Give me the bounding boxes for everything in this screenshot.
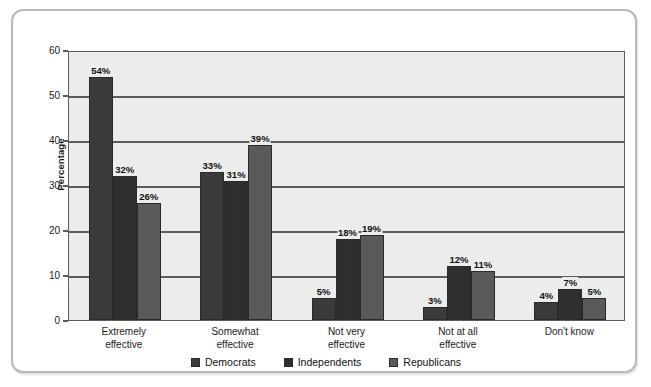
bar-wrap: 4% xyxy=(534,52,558,320)
x-category-label: Extremelyeffective xyxy=(68,325,179,351)
bar-wrap: 31% xyxy=(224,52,248,320)
bar-republicans[interactable]: 11% xyxy=(471,271,495,321)
bar-value-label: 5% xyxy=(586,286,602,297)
bar-republicans[interactable]: 39% xyxy=(248,145,272,321)
legend-swatch-icon xyxy=(284,358,293,367)
bar-wrap: 5% xyxy=(582,52,606,320)
bar-group: 4%7%5% xyxy=(534,52,606,320)
legend-label: Democrats xyxy=(205,356,256,368)
y-tick-label: 10 xyxy=(30,270,60,281)
legend-label: Independents xyxy=(298,356,362,368)
bar-independents[interactable]: 18% xyxy=(336,239,360,320)
y-tick-label: 50 xyxy=(30,90,60,101)
bar-value-label: 33% xyxy=(202,160,223,171)
bar-democrats[interactable]: 54% xyxy=(89,77,113,320)
bar-wrap: 54% xyxy=(89,52,113,320)
bar-independents[interactable]: 31% xyxy=(224,181,248,321)
bar-value-label: 5% xyxy=(316,286,332,297)
bar-value-label: 12% xyxy=(448,254,469,265)
bar-wrap: 11% xyxy=(471,52,495,320)
bar-wrap: 39% xyxy=(248,52,272,320)
bar-value-label: 54% xyxy=(90,65,111,76)
bar-wrap: 26% xyxy=(137,52,161,320)
bar-group: 5%18%19% xyxy=(312,52,384,320)
legend-swatch-icon xyxy=(191,358,200,367)
bar-independents[interactable]: 7% xyxy=(558,289,582,321)
bar-democrats[interactable]: 3% xyxy=(423,307,447,321)
bar-wrap: 19% xyxy=(360,52,384,320)
x-category-label-line: Somewhat xyxy=(179,325,290,338)
x-category-label-line: effective xyxy=(179,338,290,351)
x-category-label-line: effective xyxy=(402,338,513,351)
bar-wrap: 33% xyxy=(200,52,224,320)
bar-wrap: 3% xyxy=(423,52,447,320)
bar-independents[interactable]: 32% xyxy=(113,176,137,320)
x-category-label-line: Not very xyxy=(291,325,402,338)
bar-republicans[interactable]: 19% xyxy=(360,235,384,321)
plot-area: 54%32%26%33%31%39%5%18%19%3%12%11%4%7%5% xyxy=(68,51,625,321)
x-category-label: Not veryeffective xyxy=(291,325,402,351)
bar-group: 33%31%39% xyxy=(200,52,272,320)
chart-legend: DemocratsIndependentsRepublicans xyxy=(13,356,639,368)
bar-value-label: 7% xyxy=(562,277,578,288)
bar-value-label: 39% xyxy=(250,133,271,144)
bar-democrats[interactable]: 4% xyxy=(534,302,558,320)
y-tick-label: 30 xyxy=(30,180,60,191)
legend-swatch-icon xyxy=(389,358,398,367)
bar-wrap: 32% xyxy=(113,52,137,320)
y-tick-label: 60 xyxy=(30,45,60,56)
bar-republicans[interactable]: 5% xyxy=(582,298,606,321)
x-category-label: Not at alleffective xyxy=(402,325,513,351)
y-tick-label: 40 xyxy=(30,135,60,146)
x-category-label-line: effective xyxy=(68,338,179,351)
y-tick-label: 20 xyxy=(30,225,60,236)
legend-label: Republicans xyxy=(403,356,461,368)
x-category-label: Don't know xyxy=(514,325,625,338)
legend-item-independents[interactable]: Independents xyxy=(284,356,362,368)
bar-value-label: 4% xyxy=(538,290,554,301)
x-category-label: Somewhateffective xyxy=(179,325,290,351)
x-category-label-line: Don't know xyxy=(514,325,625,338)
bar-democrats[interactable]: 33% xyxy=(200,172,224,321)
y-axis-title: Percentage xyxy=(55,115,66,215)
bar-value-label: 19% xyxy=(361,223,382,234)
bar-value-label: 26% xyxy=(138,191,159,202)
bar-wrap: 5% xyxy=(312,52,336,320)
bar-value-label: 31% xyxy=(226,169,247,180)
x-category-label-line: Extremely xyxy=(68,325,179,338)
legend-item-democrats[interactable]: Democrats xyxy=(191,356,256,368)
bar-independents[interactable]: 12% xyxy=(447,266,471,320)
bar-value-label: 32% xyxy=(114,164,135,175)
bar-group: 54%32%26% xyxy=(89,52,161,320)
bar-value-label: 3% xyxy=(427,295,443,306)
figure-card: Percentage 0102030405060 54%32%26%33%31%… xyxy=(11,9,637,373)
x-category-label-line: Not at all xyxy=(402,325,513,338)
bar-wrap: 18% xyxy=(336,52,360,320)
bar-value-label: 11% xyxy=(473,259,494,270)
x-category-label-line: effective xyxy=(291,338,402,351)
bar-wrap: 12% xyxy=(447,52,471,320)
bar-republicans[interactable]: 26% xyxy=(137,203,161,320)
y-tick-label: 0 xyxy=(30,315,60,326)
bar-value-label: 18% xyxy=(337,227,358,238)
legend-item-republicans[interactable]: Republicans xyxy=(389,356,461,368)
bar-democrats[interactable]: 5% xyxy=(312,298,336,321)
bar-wrap: 7% xyxy=(558,52,582,320)
bar-group: 3%12%11% xyxy=(423,52,495,320)
